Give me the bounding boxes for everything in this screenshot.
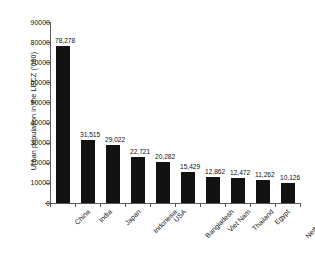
- x-axis-tick: [225, 203, 226, 207]
- y-axis-tick: [45, 123, 50, 124]
- y-axis-tick: [45, 163, 50, 164]
- x-axis-category-label: India: [97, 208, 113, 224]
- y-axis-tick: [45, 42, 50, 43]
- x-axis-category-label: Japan: [123, 208, 142, 227]
- bar[interactable]: [156, 162, 170, 203]
- x-axis-category-label: China: [73, 208, 92, 227]
- y-axis-labels: 0100002000030000400005000060000700008000…: [0, 0, 50, 258]
- y-axis-tick: [45, 143, 50, 144]
- bar[interactable]: [81, 140, 95, 203]
- y-axis-tick: [45, 22, 50, 23]
- x-axis-tick: [300, 203, 301, 207]
- x-axis-category-label: Netherlands: [304, 208, 315, 240]
- x-axis-category-label: Indonesia: [151, 208, 178, 235]
- x-axis-tick: [125, 203, 126, 207]
- bar-value-label: 20,282: [155, 153, 175, 160]
- bar[interactable]: [256, 180, 270, 203]
- y-axis-tick-label: 80000: [6, 39, 50, 46]
- y-axis-tick-label: 10000: [6, 179, 50, 186]
- bar[interactable]: [281, 183, 295, 203]
- bar[interactable]: [206, 177, 220, 203]
- y-axis-tick-label: 40000: [6, 119, 50, 126]
- bar[interactable]: [181, 172, 195, 203]
- bar-value-label: 15,429: [180, 163, 200, 170]
- bar[interactable]: [56, 46, 70, 203]
- x-axis-category-label: Thailand: [250, 208, 275, 233]
- y-axis-tick-label: 50000: [6, 99, 50, 106]
- x-axis-tick: [100, 203, 101, 207]
- bar[interactable]: [106, 145, 120, 203]
- x-axis-tick: [175, 203, 176, 207]
- y-axis-tick-label: 90000: [6, 19, 50, 26]
- y-axis-tick: [45, 82, 50, 83]
- bar-value-label: 12,862: [205, 168, 225, 175]
- bar-value-label: 10,126: [280, 174, 300, 181]
- y-axis-tick-label: 70000: [6, 59, 50, 66]
- bar-value-label: 78,278: [55, 37, 75, 44]
- y-axis-tick: [45, 183, 50, 184]
- x-axis-tick: [200, 203, 201, 207]
- bar-value-label: 22,721: [130, 148, 150, 155]
- y-axis-tick-label: 60000: [6, 79, 50, 86]
- x-axis-tick: [150, 203, 151, 207]
- y-axis-tick: [45, 102, 50, 103]
- bar[interactable]: [231, 178, 245, 203]
- x-axis-tick: [75, 203, 76, 207]
- bar-value-label: 31,515: [80, 131, 100, 138]
- x-axis-tick: [275, 203, 276, 207]
- x-axis-category-label: Egypt: [273, 208, 291, 226]
- bar-chart: Urban population in the LECZ ('000) 0100…: [0, 0, 315, 258]
- x-axis-tick: [50, 203, 51, 207]
- y-axis-tick-label: 0: [6, 200, 50, 207]
- bar-value-label: 12,472: [230, 169, 250, 176]
- bar-value-label: 11,262: [255, 171, 275, 178]
- y-axis-tick-label: 20000: [6, 159, 50, 166]
- x-axis-tick: [250, 203, 251, 207]
- y-axis-tick: [45, 62, 50, 63]
- bar-value-label: 29,022: [105, 136, 125, 143]
- y-axis-tick-label: 30000: [6, 139, 50, 146]
- bar[interactable]: [131, 157, 145, 203]
